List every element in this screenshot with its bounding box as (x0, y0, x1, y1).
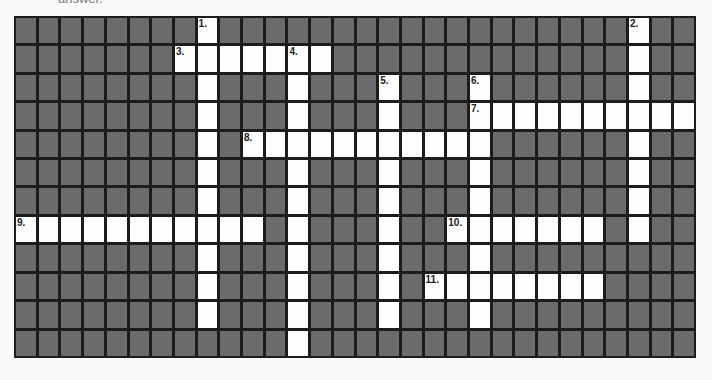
answer-cell[interactable] (629, 160, 649, 185)
block-cell (447, 46, 467, 71)
answer-cell[interactable] (61, 217, 81, 242)
answer-cell[interactable] (606, 103, 626, 128)
answer-cell[interactable] (470, 302, 490, 327)
block-cell (515, 75, 535, 100)
answer-cell[interactable] (629, 103, 649, 128)
answer-cell[interactable] (425, 132, 445, 157)
answer-cell[interactable] (674, 103, 694, 128)
answer-cell[interactable] (379, 188, 399, 213)
answer-cell[interactable] (266, 132, 286, 157)
answer-cell[interactable] (288, 75, 308, 100)
answer-cell[interactable] (629, 46, 649, 71)
block-cell (130, 245, 150, 270)
answer-cell[interactable] (379, 103, 399, 128)
answer-cell[interactable] (447, 274, 467, 299)
answer-cell[interactable] (198, 75, 218, 100)
answer-cell[interactable] (561, 274, 581, 299)
answer-cell[interactable] (493, 274, 513, 299)
answer-cell[interactable] (198, 103, 218, 128)
answer-cell[interactable] (470, 188, 490, 213)
block-cell (652, 274, 672, 299)
answer-cell[interactable] (311, 46, 331, 71)
answer-cell[interactable] (175, 217, 195, 242)
answer-cell[interactable]: 7. (470, 103, 490, 128)
answer-cell[interactable]: 5. (379, 75, 399, 100)
answer-cell[interactable] (39, 217, 59, 242)
answer-cell[interactable] (288, 217, 308, 242)
answer-cell[interactable] (629, 75, 649, 100)
answer-cell[interactable] (538, 274, 558, 299)
answer-cell[interactable]: 10. (447, 217, 467, 242)
answer-cell[interactable] (629, 188, 649, 213)
block-cell (175, 302, 195, 327)
answer-cell[interactable] (288, 160, 308, 185)
answer-cell[interactable] (107, 217, 127, 242)
answer-cell[interactable] (266, 46, 286, 71)
block-cell (107, 302, 127, 327)
answer-cell[interactable] (515, 103, 535, 128)
answer-cell[interactable] (288, 188, 308, 213)
answer-cell[interactable] (198, 160, 218, 185)
answer-cell[interactable] (198, 245, 218, 270)
answer-cell[interactable] (652, 103, 672, 128)
answer-cell[interactable] (243, 46, 263, 71)
answer-cell[interactable] (288, 132, 308, 157)
answer-cell[interactable] (584, 274, 604, 299)
answer-cell[interactable] (311, 132, 331, 157)
answer-cell[interactable] (470, 245, 490, 270)
answer-cell[interactable] (288, 274, 308, 299)
answer-cell[interactable] (220, 46, 240, 71)
answer-cell[interactable] (198, 217, 218, 242)
answer-cell[interactable] (130, 217, 150, 242)
answer-cell[interactable]: 8. (243, 132, 263, 157)
answer-cell[interactable]: 3. (175, 46, 195, 71)
answer-cell[interactable] (629, 217, 649, 242)
answer-cell[interactable] (629, 132, 649, 157)
answer-cell[interactable] (515, 217, 535, 242)
answer-cell[interactable] (538, 103, 558, 128)
answer-cell[interactable] (470, 274, 490, 299)
answer-cell[interactable] (357, 132, 377, 157)
answer-cell[interactable]: 2. (629, 18, 649, 43)
answer-cell[interactable] (334, 132, 354, 157)
answer-cell[interactable] (379, 302, 399, 327)
answer-cell[interactable]: 1. (198, 18, 218, 43)
answer-cell[interactable] (470, 132, 490, 157)
answer-cell[interactable] (447, 132, 467, 157)
answer-cell[interactable] (470, 217, 490, 242)
answer-cell[interactable] (379, 217, 399, 242)
answer-cell[interactable] (379, 245, 399, 270)
answer-cell[interactable] (288, 103, 308, 128)
answer-cell[interactable] (198, 132, 218, 157)
answer-cell[interactable] (493, 217, 513, 242)
answer-cell[interactable]: 9. (16, 217, 36, 242)
answer-cell[interactable]: 6. (470, 75, 490, 100)
answer-cell[interactable] (288, 245, 308, 270)
answer-cell[interactable] (243, 217, 263, 242)
answer-cell[interactable] (379, 160, 399, 185)
answer-cell[interactable] (538, 217, 558, 242)
answer-cell[interactable]: 11. (425, 274, 445, 299)
answer-cell[interactable] (584, 103, 604, 128)
answer-cell[interactable] (288, 331, 308, 356)
answer-cell[interactable] (515, 274, 535, 299)
answer-cell[interactable] (470, 160, 490, 185)
answer-cell[interactable] (561, 103, 581, 128)
answer-cell[interactable] (220, 217, 240, 242)
block-cell (674, 188, 694, 213)
answer-cell[interactable] (198, 302, 218, 327)
block-cell (402, 188, 422, 213)
answer-cell[interactable] (379, 274, 399, 299)
answer-cell[interactable] (288, 302, 308, 327)
answer-cell[interactable] (152, 217, 172, 242)
answer-cell[interactable] (198, 274, 218, 299)
answer-cell[interactable] (402, 132, 422, 157)
answer-cell[interactable] (84, 217, 104, 242)
answer-cell[interactable] (379, 132, 399, 157)
answer-cell[interactable] (584, 217, 604, 242)
answer-cell[interactable]: 4. (288, 46, 308, 71)
answer-cell[interactable] (493, 103, 513, 128)
answer-cell[interactable] (198, 188, 218, 213)
answer-cell[interactable] (561, 217, 581, 242)
answer-cell[interactable] (198, 46, 218, 71)
